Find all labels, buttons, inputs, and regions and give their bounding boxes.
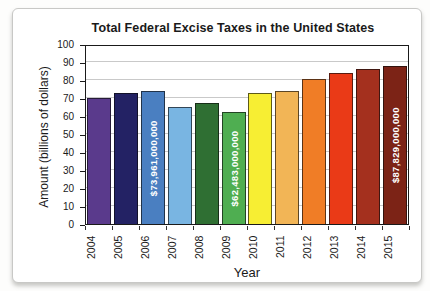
xtick-label-2013: 2013 xyxy=(328,230,355,264)
xtick-label-2010: 2010 xyxy=(247,230,274,264)
xtick-label-2004: 2004 xyxy=(85,230,112,264)
ytick-mark-50 xyxy=(80,135,85,136)
xtick-label-2012: 2012 xyxy=(301,230,328,264)
x-axis-title: Year xyxy=(85,265,409,280)
xtick-label-2011: 2011 xyxy=(274,230,301,264)
ytick-label-40: 40 xyxy=(44,147,74,158)
ytick-mark-80 xyxy=(80,81,85,82)
xtick-label-2008: 2008 xyxy=(193,230,220,264)
ytick-label-10: 10 xyxy=(44,201,74,212)
bar-2013 xyxy=(329,73,353,224)
plot-area: $73,961,000,000$62,483,000,000$87,829,00… xyxy=(85,45,409,225)
ytick-label-80: 80 xyxy=(44,75,74,86)
chart-card: Total Federal Excise Taxes in the United… xyxy=(12,8,422,283)
xtick-label-2007: 2007 xyxy=(166,230,193,264)
chart-title: Total Federal Excise Taxes in the United… xyxy=(53,21,413,35)
ytick-mark-30 xyxy=(80,171,85,172)
ytick-label-0: 0 xyxy=(44,219,74,230)
ytick-label-30: 30 xyxy=(44,165,74,176)
ytick-label-70: 70 xyxy=(44,93,74,104)
ytick-mark-40 xyxy=(80,153,85,154)
bar-value-label-2015: $87,829,000,000 xyxy=(384,67,406,224)
bar-value-label-2006: $73,961,000,000 xyxy=(142,92,164,224)
bar-2009: $62,483,000,000 xyxy=(222,112,246,224)
ytick-label-60: 60 xyxy=(44,111,74,122)
bar-2010 xyxy=(248,93,272,224)
xtick-label-2015: 2015 xyxy=(382,230,409,264)
bar-2004 xyxy=(87,98,111,224)
bar-2007 xyxy=(168,107,192,224)
xtick-label-2005: 2005 xyxy=(112,230,139,264)
bar-2006: $73,961,000,000 xyxy=(141,91,165,224)
ytick-label-90: 90 xyxy=(44,57,74,68)
ytick-mark-20 xyxy=(80,189,85,190)
ytick-mark-60 xyxy=(80,117,85,118)
xtick-label-2006: 2006 xyxy=(139,230,166,264)
bar-2011 xyxy=(275,91,299,224)
xtick-label-2009: 2009 xyxy=(220,230,247,264)
ytick-mark-70 xyxy=(80,99,85,100)
ytick-mark-10 xyxy=(80,207,85,208)
ytick-label-20: 20 xyxy=(44,183,74,194)
bar-2008 xyxy=(195,103,219,225)
bar-2014 xyxy=(356,69,380,224)
bar-2012 xyxy=(302,79,326,224)
ytick-label-100: 100 xyxy=(44,39,74,50)
ytick-mark-100 xyxy=(80,45,85,46)
bars-layer: $73,961,000,000$62,483,000,000$87,829,00… xyxy=(86,46,408,224)
ytick-label-50: 50 xyxy=(44,129,74,140)
x-axis-labels: 2004200520062007200820092010201120122013… xyxy=(85,230,409,264)
xtick-mark-12 xyxy=(409,226,410,230)
bar-2005 xyxy=(114,93,138,224)
bar-2015: $87,829,000,000 xyxy=(383,66,407,224)
ytick-mark-90 xyxy=(80,63,85,64)
xtick-label-2014: 2014 xyxy=(355,230,382,264)
bar-value-label-2009: $62,483,000,000 xyxy=(223,113,245,224)
